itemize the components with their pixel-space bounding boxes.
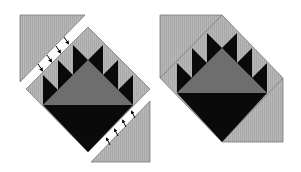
arrow-icon: [123, 121, 126, 127]
quilt-block-diagram: [0, 0, 301, 172]
arrow-icon: [132, 112, 135, 118]
arrow-icon: [56, 46, 60, 52]
arrow-icon: [47, 55, 51, 61]
arrow-icon: [38, 64, 42, 70]
assembled-view: [160, 15, 283, 142]
exploded-view: [20, 15, 150, 162]
arrow-icon: [64, 37, 68, 43]
